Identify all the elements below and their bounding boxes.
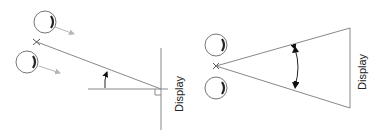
left-panel: Display: [16, 11, 185, 130]
eye-icon: [205, 77, 227, 99]
angle-arc: [105, 72, 107, 88]
eye-icon: [205, 34, 227, 56]
gaze-arrow: [39, 66, 60, 73]
viewing-cone: [216, 28, 350, 108]
line-of-sight: [37, 42, 161, 89]
right-angle-marker: [155, 89, 161, 95]
display-label: Display: [173, 75, 185, 112]
eye-icon: [16, 51, 38, 73]
observer-point-marker: [33, 39, 40, 45]
gaze-arrow: [55, 27, 74, 34]
angle-arc: [295, 49, 298, 86]
arrowhead-icon: [292, 82, 299, 89]
diagram-canvas: Display Display: [0, 0, 384, 136]
right-panel: Display: [205, 28, 368, 108]
arrowhead-icon: [292, 46, 299, 53]
display-label: Display: [356, 53, 368, 90]
eye-icon: [34, 11, 56, 33]
